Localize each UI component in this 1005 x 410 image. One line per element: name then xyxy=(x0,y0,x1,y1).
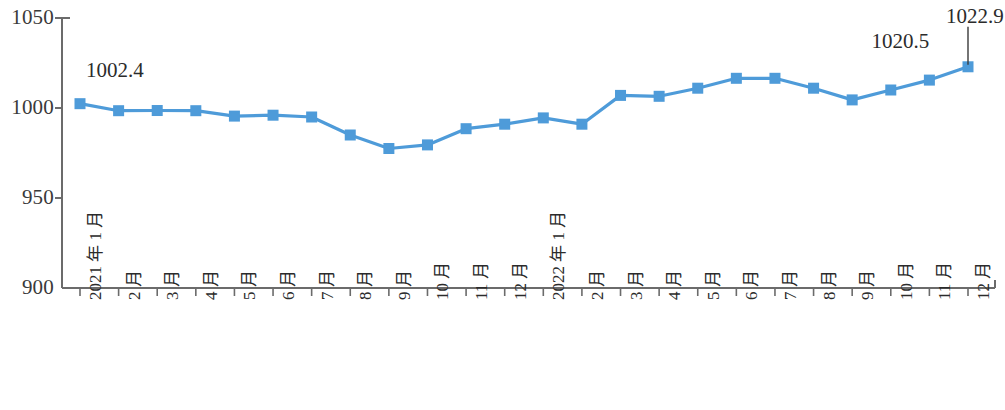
data-point-marker xyxy=(229,111,240,122)
data-point-label: 1020.5 xyxy=(871,30,929,52)
x-axis-tick-label: 11 月 xyxy=(473,262,491,300)
data-point-marker xyxy=(306,112,317,123)
data-point-marker xyxy=(268,110,279,121)
y-axis-tick-label: 1050 xyxy=(2,7,54,28)
x-axis-tick-label: 8 月 xyxy=(357,270,375,300)
data-point-marker xyxy=(538,112,549,123)
x-axis-tick-label: 6 月 xyxy=(743,270,761,300)
data-point-marker xyxy=(345,130,356,141)
x-axis-tick-label: 7 月 xyxy=(319,270,337,300)
x-axis-tick-label: 4 月 xyxy=(203,270,221,300)
x-axis-tick-label: 2 月 xyxy=(589,270,607,300)
x-axis-tick-label: 2 月 xyxy=(126,270,144,300)
x-axis-tick-label: 11 月 xyxy=(936,262,954,300)
x-axis-tick-label: 2021 年 1 月 xyxy=(87,211,105,300)
data-point-label: 1002.4 xyxy=(86,59,144,81)
x-axis-tick-label: 2022 年 1 月 xyxy=(550,211,568,300)
line-chart: 90095010001050 2021 年 1 月2 月3 月4 月5 月6 月… xyxy=(0,0,1005,410)
x-axis-tick-label: 3 月 xyxy=(628,270,646,300)
data-point-marker xyxy=(731,73,742,84)
y-axis-tick-label: 1000 xyxy=(2,97,54,118)
x-axis-tick-label: 5 月 xyxy=(705,270,723,300)
chart-plot-area xyxy=(0,0,1005,410)
x-axis-tick-label: 9 月 xyxy=(859,270,877,300)
y-axis-tick-label: 950 xyxy=(2,187,54,208)
y-axis-tick-label: 900 xyxy=(2,277,54,298)
data-point-marker xyxy=(576,119,587,130)
series-markers xyxy=(75,61,974,154)
data-point-marker xyxy=(190,105,201,116)
data-point-marker xyxy=(769,73,780,84)
data-point-marker xyxy=(75,98,86,109)
data-point-marker xyxy=(808,83,819,94)
data-point-marker xyxy=(113,105,124,116)
data-series xyxy=(75,61,974,154)
data-point-marker xyxy=(461,123,472,134)
data-point-marker xyxy=(654,91,665,102)
x-axis-tick-label: 7 月 xyxy=(782,270,800,300)
data-point-marker xyxy=(692,83,703,94)
data-point-marker xyxy=(422,139,433,150)
x-axis-tick-label: 6 月 xyxy=(280,270,298,300)
data-point-marker xyxy=(152,105,163,116)
x-axis-tick-label: 3 月 xyxy=(164,270,182,300)
x-axis-tick-label: 4 月 xyxy=(666,270,684,300)
chart-axes xyxy=(62,18,995,288)
data-point-marker xyxy=(924,75,935,86)
data-point-marker xyxy=(499,119,510,130)
x-axis-tick-label: 8 月 xyxy=(821,270,839,300)
x-axis-tick-label: 12 月 xyxy=(975,262,993,300)
data-point-marker xyxy=(383,143,394,154)
series-line xyxy=(80,67,968,149)
data-point-marker xyxy=(847,94,858,105)
x-axis-tick-label: 10 月 xyxy=(434,262,452,300)
y-axis-ticks xyxy=(55,18,62,198)
x-axis-tick-label: 9 月 xyxy=(396,270,414,300)
data-point-marker xyxy=(885,85,896,96)
data-point-marker xyxy=(615,90,626,101)
x-axis-tick-label: 10 月 xyxy=(898,262,916,300)
data-point-label: 1022.9 xyxy=(946,5,1004,27)
x-axis-tick-label: 12 月 xyxy=(512,262,530,300)
x-axis-tick-label: 5 月 xyxy=(241,270,259,300)
